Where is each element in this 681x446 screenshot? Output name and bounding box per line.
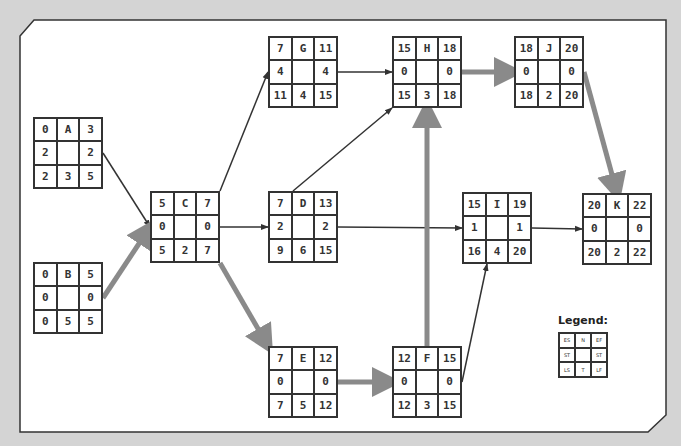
- node-cell-empty: [292, 60, 315, 83]
- node-cell-t: 4: [292, 84, 315, 107]
- node-f: 12F150012315: [392, 346, 462, 418]
- node-cell-st_left: 0: [393, 370, 416, 393]
- node-cell-st_right: 2: [79, 141, 102, 164]
- node-cell-ls: 9: [269, 239, 292, 262]
- node-cell-lf: 7: [196, 239, 219, 262]
- node-cell-es: 7: [269, 347, 292, 370]
- node-cell-ls: 20: [583, 241, 606, 264]
- node-cell-t: 4: [486, 240, 509, 263]
- node-c: 5C700527: [150, 191, 220, 263]
- node-cell-ls: 15: [393, 84, 416, 107]
- node-cell-ls: 18: [515, 84, 538, 107]
- node-cell-ls: 12: [393, 394, 416, 417]
- legend-cell: N: [575, 333, 591, 348]
- legend-cell: T: [575, 362, 591, 377]
- node-cell-st_left: 0: [583, 217, 606, 240]
- node-cell-st_left: 0: [269, 370, 292, 393]
- node-cell-st_left: 0: [515, 60, 538, 83]
- legend-cell: ST: [559, 348, 575, 363]
- node-cell-es: 7: [269, 192, 292, 215]
- node-cell-st_left: 2: [269, 215, 292, 238]
- node-cell-id: B: [57, 263, 80, 286]
- node-cell-t: 5: [57, 310, 80, 333]
- node-a: 0A322235: [33, 117, 103, 189]
- legend-cell: [575, 348, 591, 363]
- node-cell-id: G: [292, 37, 315, 60]
- node-cell-ls: 11: [269, 84, 292, 107]
- node-cell-t: 6: [292, 239, 315, 262]
- node-cell-t: 3: [416, 394, 439, 417]
- node-cell-st_right: 0: [314, 370, 337, 393]
- legend-cell: ES: [559, 333, 575, 348]
- node-cell-lf: 12: [314, 394, 337, 417]
- node-cell-lf: 15: [438, 394, 461, 417]
- node-cell-ef: 15: [438, 347, 461, 370]
- node-cell-id: D: [292, 192, 315, 215]
- edge-d-i: [338, 227, 462, 228]
- node-cell-empty: [538, 60, 561, 83]
- node-cell-ef: 13: [314, 192, 337, 215]
- node-cell-st_left: 0: [151, 215, 174, 238]
- node-cell-lf: 18: [438, 84, 461, 107]
- node-cell-t: 3: [416, 84, 439, 107]
- node-cell-es: 5: [151, 192, 174, 215]
- legend-cell: ST: [591, 348, 607, 363]
- edge-i-k: [532, 228, 582, 229]
- node-g: 7G114411415: [268, 36, 338, 108]
- node-cell-empty: [606, 217, 629, 240]
- node-cell-st_right: 0: [628, 217, 651, 240]
- node-cell-es: 15: [463, 193, 486, 216]
- node-cell-st_right: 4: [314, 60, 337, 83]
- node-cell-empty: [292, 370, 315, 393]
- node-cell-id: E: [292, 347, 315, 370]
- node-cell-empty: [486, 216, 509, 239]
- node-e: 7E12007512: [268, 346, 338, 418]
- node-cell-es: 20: [583, 194, 606, 217]
- legend-box: ESNEFSTSTLSTLF: [558, 332, 608, 378]
- node-cell-empty: [174, 215, 197, 238]
- node-cell-es: 7: [269, 37, 292, 60]
- node-cell-t: 2: [538, 84, 561, 107]
- legend-title: Legend:: [558, 314, 608, 327]
- node-cell-empty: [57, 286, 80, 309]
- node-j: 18J200018220: [514, 36, 584, 108]
- node-cell-ls: 5: [151, 239, 174, 262]
- node-cell-ef: 11: [314, 37, 337, 60]
- node-cell-ef: 5: [79, 263, 102, 286]
- node-cell-es: 18: [515, 37, 538, 60]
- node-cell-st_right: 0: [438, 370, 461, 393]
- node-cell-st_right: 0: [438, 60, 461, 83]
- node-cell-t: 2: [606, 241, 629, 264]
- legend-cell: LS: [559, 362, 575, 377]
- node-cell-es: 12: [393, 347, 416, 370]
- node-k: 20K220020222: [582, 193, 652, 265]
- node-cell-lf: 15: [314, 239, 337, 262]
- node-cell-t: 2: [174, 239, 197, 262]
- node-cell-id: H: [416, 37, 439, 60]
- node-cell-t: 3: [57, 165, 80, 188]
- legend-cell: LF: [591, 362, 607, 377]
- node-cell-id: I: [486, 193, 509, 216]
- node-cell-lf: 15: [314, 84, 337, 107]
- node-cell-lf: 20: [560, 84, 583, 107]
- node-cell-ef: 12: [314, 347, 337, 370]
- node-cell-es: 0: [34, 263, 57, 286]
- node-cell-ef: 7: [196, 192, 219, 215]
- node-d: 7D13229615: [268, 191, 338, 263]
- node-cell-empty: [292, 215, 315, 238]
- node-cell-lf: 22: [628, 241, 651, 264]
- node-b: 0B500055: [33, 262, 103, 334]
- node-cell-st_right: 0: [560, 60, 583, 83]
- node-cell-empty: [416, 370, 439, 393]
- node-cell-ef: 18: [438, 37, 461, 60]
- node-cell-ls: 7: [269, 394, 292, 417]
- node-cell-st_right: 1: [508, 216, 531, 239]
- node-cell-ls: 0: [34, 310, 57, 333]
- node-cell-st_left: 0: [393, 60, 416, 83]
- node-cell-st_left: 1: [463, 216, 486, 239]
- node-cell-es: 0: [34, 118, 57, 141]
- node-cell-st_left: 0: [34, 286, 57, 309]
- node-cell-id: K: [606, 194, 629, 217]
- node-cell-ef: 19: [508, 193, 531, 216]
- node-cell-id: A: [57, 118, 80, 141]
